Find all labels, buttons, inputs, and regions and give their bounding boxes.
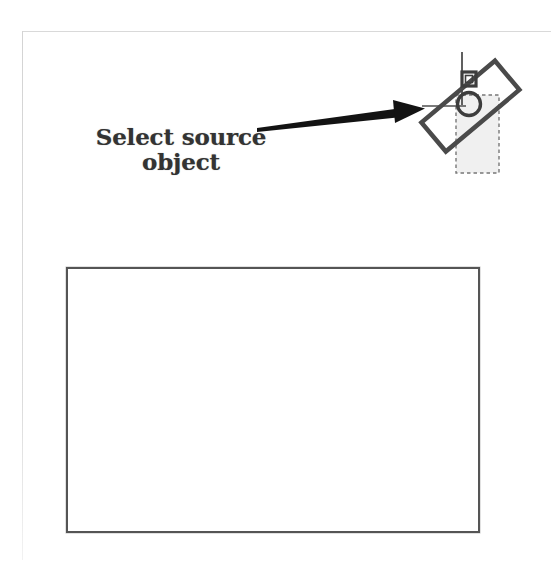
page-border-top: [22, 31, 551, 32]
source-object-group[interactable]: [404, 44, 534, 184]
caption-line-2: object: [78, 149, 284, 174]
figure-canvas: Select source object: [0, 0, 551, 574]
destination-rectangle[interactable]: [66, 267, 480, 533]
page-border-left: [22, 31, 23, 560]
